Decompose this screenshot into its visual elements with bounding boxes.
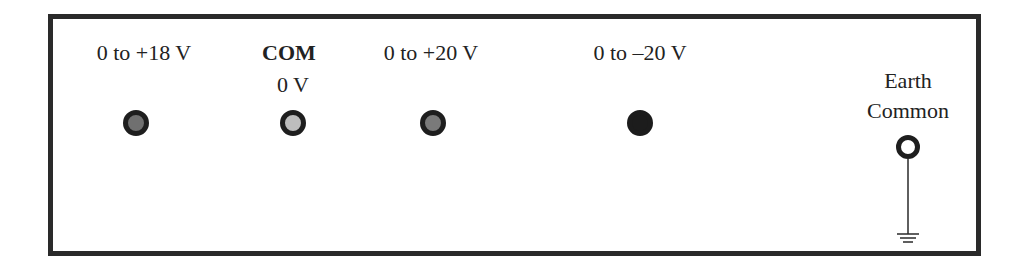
- ground-symbol-icon: [0, 0, 1023, 269]
